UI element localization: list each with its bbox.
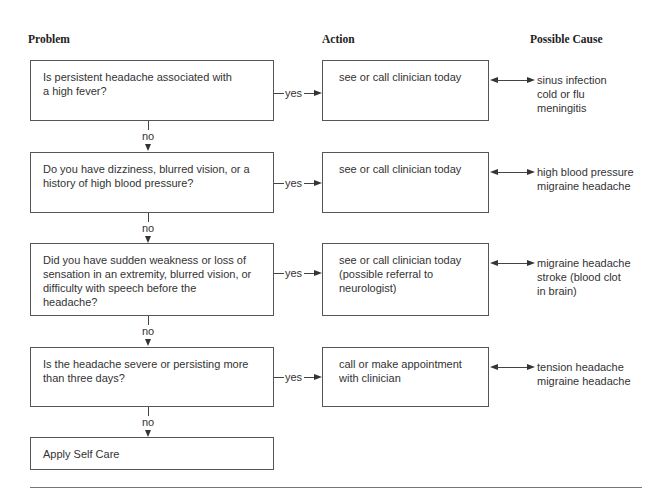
- yes-connector-line: [304, 183, 314, 184]
- possible-causes-list: sinus infection cold or flu meningitis: [537, 73, 607, 115]
- yes-connector-line: [304, 273, 314, 274]
- action-text: call or make appointment with clinician: [339, 357, 462, 385]
- bidirectional-arrow-line: [496, 367, 528, 368]
- arrow-right-icon: [527, 364, 535, 370]
- problem-text: Did you have sudden weakness or loss of …: [43, 253, 251, 309]
- terminal-box-self-care: Apply Self Care: [30, 437, 274, 470]
- arrow-right-icon: [527, 77, 535, 83]
- problem-box-fever: Is persistent headache associated with a…: [30, 60, 274, 121]
- arrow-right-icon: [314, 270, 322, 276]
- yes-connector-line: [304, 93, 314, 94]
- possible-causes-list: high blood pressure migraine headache: [537, 165, 634, 193]
- arrow-right-icon: [314, 374, 322, 380]
- possible-causes-list: tension headache migraine headache: [537, 360, 631, 388]
- possible-causes-list: migraine headache stroke (blood clot in …: [537, 256, 631, 298]
- yes-connector-line: [304, 377, 314, 378]
- action-box-see-clinician: see or call clinician today: [322, 60, 489, 121]
- yes-connector-line: [274, 183, 284, 184]
- problem-text: Is persistent headache associated with a…: [43, 70, 232, 98]
- action-box-see-clinician-referral: see or call clinician today (possible re…: [322, 243, 489, 316]
- header-problem: Problem: [28, 33, 70, 45]
- bidirectional-arrow-line: [496, 80, 528, 81]
- header-possible-cause: Possible Cause: [530, 33, 603, 45]
- yes-label: yes: [285, 267, 302, 279]
- arrow-right-icon: [314, 180, 322, 186]
- problem-text: Is the headache severe or persisting mor…: [43, 357, 248, 385]
- problem-text: Do you have dizziness, blurred vision, o…: [43, 162, 250, 190]
- bottom-divider: [30, 487, 642, 488]
- no-label: no: [142, 416, 154, 428]
- arrow-down-icon: [145, 339, 151, 346]
- yes-connector-line: [274, 273, 284, 274]
- terminal-text: Apply Self Care: [43, 447, 119, 461]
- action-text: see or call clinician today (possible re…: [339, 253, 461, 295]
- bidirectional-arrow-line: [496, 172, 528, 173]
- yes-label: yes: [285, 87, 302, 99]
- problem-box-dizziness: Do you have dizziness, blurred vision, o…: [30, 152, 274, 213]
- header-action: Action: [322, 33, 355, 45]
- no-label: no: [142, 222, 154, 234]
- arrow-down-icon: [145, 236, 151, 243]
- action-box-see-clinician: see or call clinician today: [322, 152, 489, 213]
- yes-label: yes: [285, 371, 302, 383]
- arrow-down-icon: [145, 144, 151, 151]
- yes-connector-line: [274, 93, 284, 94]
- no-label: no: [142, 325, 154, 337]
- yes-connector-line: [274, 377, 284, 378]
- problem-box-severe-persisting: Is the headache severe or persisting mor…: [30, 347, 274, 407]
- arrow-right-icon: [527, 169, 535, 175]
- arrow-right-icon: [527, 260, 535, 266]
- bidirectional-arrow-line: [496, 263, 528, 264]
- yes-label: yes: [285, 177, 302, 189]
- arrow-right-icon: [314, 90, 322, 96]
- arrow-down-icon: [145, 430, 151, 437]
- action-box-make-appointment: call or make appointment with clinician: [322, 347, 489, 407]
- action-text: see or call clinician today: [339, 162, 461, 176]
- problem-box-sudden-weakness: Did you have sudden weakness or loss of …: [30, 243, 274, 316]
- action-text: see or call clinician today: [339, 70, 461, 84]
- no-label: no: [142, 130, 154, 142]
